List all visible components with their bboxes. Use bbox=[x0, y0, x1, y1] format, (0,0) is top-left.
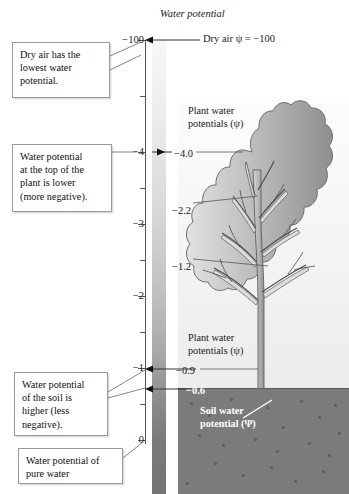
axis-line bbox=[145, 40, 146, 444]
callout-line: pure water bbox=[26, 467, 116, 480]
plant-water-potentials-top: Plant waterpotentials (ψ) bbox=[188, 104, 243, 130]
axis-tick-label: −2 bbox=[104, 291, 144, 301]
callout-line: at the top of the bbox=[20, 163, 105, 176]
axis-tick-minor bbox=[140, 260, 146, 261]
dry-air-callout: Dry air has thelowest waterpotential. bbox=[12, 42, 110, 98]
value-minus-1-2: −1.2 bbox=[172, 261, 191, 272]
callout-line: potential. bbox=[20, 74, 103, 87]
panel-label-line: potentials (ψ) bbox=[188, 117, 243, 130]
value-minus-0-6: −0.6 bbox=[186, 385, 205, 396]
value-minus-4: −4.0 bbox=[174, 148, 193, 159]
axis-tick-minor bbox=[140, 188, 146, 189]
callout-line: Water potential bbox=[22, 378, 101, 391]
panel-label-line: potential (Ψ) bbox=[200, 417, 256, 430]
soil-water-potential: Soil waterpotential (Ψ) bbox=[200, 404, 256, 430]
callout-line: Dry air has the bbox=[20, 48, 103, 61]
soil-callout: Water potentialof the soil ishigher (les… bbox=[14, 372, 108, 436]
axis-tick-minor bbox=[140, 404, 146, 405]
plant-water-potentials-bottom: Plant waterpotentials (ψ) bbox=[188, 331, 243, 357]
value-minus-0-9: −0.9 bbox=[176, 365, 195, 376]
callout-line: plant is lower bbox=[20, 176, 105, 189]
dry-air-label: Dry air ψ = −100 bbox=[203, 33, 275, 44]
plant-top-callout: Water potentialat the top of theplant is… bbox=[12, 144, 112, 212]
pure-water-callout: Water potential ofpure water bbox=[18, 448, 123, 484]
axis-tick-label: 0 bbox=[104, 435, 144, 445]
callout-line: lowest water bbox=[20, 61, 103, 74]
callout-line: Water potential bbox=[20, 150, 105, 163]
water-potential-figure: −100−4−3−2−10 Water potential Dry air ψ … bbox=[0, 0, 349, 494]
panel-label-line: Plant water bbox=[188, 104, 243, 117]
figure-title: Water potential bbox=[160, 8, 225, 19]
axis-tick-minor bbox=[140, 332, 146, 333]
water-potential-gradient-bar bbox=[152, 40, 166, 494]
axis-tick-label: −1 bbox=[104, 363, 144, 373]
callout-line: negative). bbox=[22, 418, 101, 431]
axis-tick-label: −100 bbox=[104, 35, 144, 45]
panel-label-line: Plant water bbox=[188, 331, 243, 344]
axis-tick-label: −3 bbox=[104, 219, 144, 229]
callout-line: higher (less bbox=[22, 404, 101, 417]
panel-label-line: Soil water bbox=[200, 404, 256, 417]
callout-line: (more negative). bbox=[20, 190, 105, 203]
panel-label-line: potentials (ψ) bbox=[188, 344, 243, 357]
axis-tick-minor bbox=[140, 96, 146, 97]
callout-line: Water potential of bbox=[26, 454, 116, 467]
callout-line: of the soil is bbox=[22, 391, 101, 404]
value-minus-2-2: −2.2 bbox=[172, 205, 191, 216]
